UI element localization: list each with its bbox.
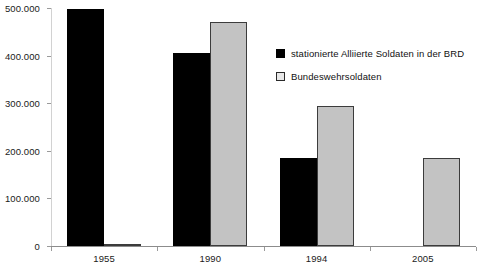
legend-item-bundeswehr: Bundeswehrsoldaten [276, 71, 464, 82]
chart-legend: stationierte Alliierte Soldaten in der B… [276, 48, 464, 94]
bar-group [386, 8, 460, 246]
plot-area [51, 8, 476, 246]
bar-group [173, 8, 247, 246]
bar-1994-allied [280, 158, 317, 246]
y-axis-tick-mark [47, 151, 51, 152]
bar-1990-bundeswehr [210, 22, 247, 246]
bar-1994-bundeswehr [317, 106, 354, 246]
y-axis-tick-label: 300.000 [5, 98, 40, 109]
legend-label-allied: stationierte Alliierte Soldaten in der B… [291, 48, 464, 59]
bar-1955-allied [67, 9, 104, 246]
x-axis-tick-mark [51, 247, 52, 251]
bar-group [280, 8, 354, 246]
bar-1955-bundeswehr [104, 244, 141, 246]
bar-1990-allied [173, 53, 210, 246]
y-axis-tick-mark [47, 103, 51, 104]
legend-label-bundeswehr: Bundeswehrsoldaten [291, 71, 382, 82]
y-axis-tick-label: 0 [35, 241, 40, 252]
x-axis-label-1955: 1955 [93, 253, 115, 264]
y-axis: 0100.000200.000300.000400.000500.000 [0, 0, 46, 269]
y-axis-tick-mark [47, 198, 51, 199]
legend-swatch-gray-square-icon [276, 72, 285, 81]
x-axis-tick-mark [157, 247, 158, 251]
y-axis-tick-label: 400.000 [5, 50, 40, 61]
legend-swatch-black-square-icon [276, 49, 285, 58]
bar-group [67, 8, 141, 246]
legend-item-allied: stationierte Alliierte Soldaten in der B… [276, 48, 464, 59]
x-axis-label-1990: 1990 [200, 253, 222, 264]
bar-chart: 0100.000200.000300.000400.000500.000 sta… [0, 0, 482, 269]
y-axis-tick-label: 100.000 [5, 193, 40, 204]
x-axis-tick-mark [370, 247, 371, 251]
y-axis-tick-mark [47, 56, 51, 57]
y-axis-tick-label: 500.000 [5, 3, 40, 14]
x-axis-label-2005: 2005 [412, 253, 434, 264]
x-axis-tick-mark [264, 247, 265, 251]
y-axis-tick-mark [47, 8, 51, 9]
x-axis-label-1994: 1994 [306, 253, 328, 264]
y-axis-tick-label: 200.000 [5, 145, 40, 156]
x-axis-tick-mark [476, 247, 477, 251]
bar-2005-bundeswehr [423, 158, 460, 246]
